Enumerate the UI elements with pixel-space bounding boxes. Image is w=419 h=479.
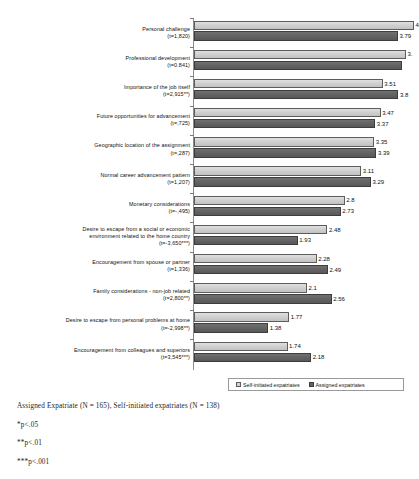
bar-assigned: 3.37 — [194, 119, 375, 128]
bar-value-label: 1.74 — [289, 343, 301, 349]
footnotes: Assigned Expatriate (N = 165), Self-init… — [17, 402, 407, 476]
bar-group: 2.481.93 — [194, 225, 418, 247]
bar-group: 3.473.37 — [194, 108, 418, 130]
bar-assigned: 2.49 — [194, 265, 328, 274]
plot-area: Personal challenge (t=1,820)43.79Profess… — [0, 8, 418, 376]
category-label: Desire to escape from a social or econom… — [0, 226, 190, 248]
bar-group: 3.513.8 — [194, 79, 418, 101]
legend-item-self-initiated: Self-initiated expatriates — [236, 382, 300, 388]
axis-tick — [190, 252, 194, 253]
bar-value-label: 2.18 — [313, 354, 325, 360]
bar-group: 2.282.49 — [194, 254, 418, 276]
bar-value-label: 2.8 — [346, 197, 354, 203]
category-label: Geographic location of the assignment (t… — [0, 142, 190, 156]
legend-swatch-icon — [309, 382, 314, 387]
bar-group: 43.79 — [194, 21, 418, 43]
bar-assigned: 3.29 — [194, 177, 371, 186]
bar-group: 2.82.73 — [194, 196, 418, 218]
bar-value-label: 2.48 — [329, 227, 341, 233]
bar-value-label: 2.1 — [308, 285, 316, 291]
bar-value-label: 3.37 — [377, 121, 389, 127]
bar-assigned: 1.93 — [194, 236, 298, 245]
axis-tick — [190, 310, 194, 311]
bar-group: 2.12.56 — [194, 283, 418, 305]
bar-assigned: 1.38 — [194, 323, 268, 332]
chart-row: Desire to escape from personal problems … — [0, 310, 418, 339]
legend-swatch-icon — [236, 382, 241, 387]
bar-group: 3. — [194, 50, 418, 72]
bar-value-label: 3. — [407, 51, 412, 57]
legend-item-assigned: Assigned expatriates — [309, 382, 365, 388]
axis-tick — [190, 106, 194, 107]
axis-tick — [190, 222, 194, 223]
bar-value-label: 2.73 — [342, 208, 354, 214]
bar-self-initiated: 3.47 — [194, 108, 381, 117]
bar-self-initiated: 3.35 — [194, 137, 374, 146]
bar-assigned: 2.56 — [194, 294, 332, 303]
category-rows: Personal challenge (t=1,820)43.79Profess… — [0, 18, 418, 368]
bar-self-initiated: 3.51 — [194, 79, 383, 88]
axis-tick — [190, 18, 194, 19]
bar-value-label: 2.49 — [329, 267, 341, 273]
bar-value-label: 3.11 — [363, 168, 374, 174]
category-label: Family considerations - non-job related … — [0, 288, 190, 302]
category-label: Monetary considerations (t=-,495) — [0, 201, 190, 215]
chart-row: Desire to escape from a social or econom… — [0, 222, 418, 251]
axis-tick — [190, 135, 194, 136]
bar-value-label: 2.56 — [333, 296, 345, 302]
chart-legend: Self-initiated expatriates Assigned expa… — [228, 378, 404, 391]
bar-self-initiated: 2.28 — [194, 254, 317, 263]
bar-value-label: 1.38 — [270, 325, 282, 331]
category-label: Desire to escape from personal problems … — [0, 317, 190, 331]
chart-row: Encouragement from colleagues and superi… — [0, 339, 418, 368]
bar-assigned: 3.8 — [194, 90, 398, 99]
significance-note-p001: ***p<.001 — [17, 458, 407, 466]
category-label: Importance of the job itself (t=2,915**) — [0, 84, 190, 98]
bar-assigned: 3.79 — [194, 31, 398, 40]
category-label: Normal career advancement pattern (t=1,2… — [0, 171, 190, 185]
axis-tick — [190, 193, 194, 194]
bar-assigned — [194, 61, 402, 70]
bar-assigned: 2.18 — [194, 353, 311, 362]
bar-value-label: 3.47 — [382, 110, 394, 116]
chart-row: Importance of the job itself (t=2,915**)… — [0, 76, 418, 105]
bar-value-label: 1.77 — [291, 314, 303, 320]
axis-tick — [190, 76, 194, 77]
chart-row: Normal career advancement pattern (t=1,2… — [0, 164, 418, 193]
category-label: Encouragement from colleagues and superi… — [0, 346, 190, 360]
chart-row: Geographic location of the assignment (t… — [0, 135, 418, 164]
bar-value-label: 3.8 — [400, 92, 408, 98]
bar-group: 1.742.18 — [194, 342, 418, 364]
bar-value-label: 3.35 — [376, 139, 388, 145]
chart-row: Encouragement from spouse or partner (t=… — [0, 252, 418, 281]
bar-group: 3.353.39 — [194, 137, 418, 159]
category-label: Professional development (t=0.841) — [0, 55, 190, 69]
axis-tick — [190, 47, 194, 48]
bar-value-label: 3.51 — [384, 81, 396, 87]
bar-self-initiated: 4 — [194, 21, 414, 30]
axis-tick — [190, 281, 194, 282]
bar-self-initiated: 3. — [194, 50, 406, 59]
bar-value-label: 3.29 — [373, 179, 385, 185]
legend-label: Assigned expatriates — [316, 382, 365, 388]
sample-size-note: Assigned Expatriate (N = 165), Self-init… — [17, 402, 407, 410]
bar-self-initiated: 1.74 — [194, 342, 288, 351]
significance-note-p01: **p<.01 — [17, 439, 407, 447]
bar-self-initiated: 2.8 — [194, 196, 345, 205]
bar-self-initiated: 2.1 — [194, 283, 307, 292]
bar-value-label: 3.39 — [378, 150, 390, 156]
bar-assigned: 2.73 — [194, 207, 341, 216]
chart-row: Personal challenge (t=1,820)43.79 — [0, 18, 418, 47]
bar-value-label: 2.28 — [318, 256, 330, 262]
significance-note-p05: *p<.05 — [17, 421, 407, 429]
bar-self-initiated: 2.48 — [194, 225, 327, 234]
chart-row: Family considerations - non-job related … — [0, 281, 418, 310]
bar-assigned: 3.39 — [194, 148, 376, 157]
bar-self-initiated: 1.77 — [194, 312, 289, 321]
bar-value-label: 4 — [416, 22, 419, 28]
chart-row: Monetary considerations (t=-,495)2.82.73 — [0, 193, 418, 222]
bar-value-label: 1.93 — [299, 237, 311, 243]
bar-self-initiated: 3.11 — [194, 166, 361, 175]
category-label: Encouragement from spouse or partner (t=… — [0, 259, 190, 273]
